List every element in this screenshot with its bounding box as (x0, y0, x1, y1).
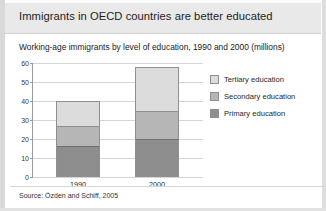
tick-mark-0 (30, 177, 33, 178)
bar-1990-segment-secondary[interactable] (57, 126, 99, 146)
figure-title: Immigrants in OECD countries are better … (19, 10, 273, 22)
bar-2000-segment-secondary[interactable] (136, 111, 178, 139)
bar-2000[interactable] (135, 67, 179, 177)
chart-subtitle: Working-age immigrants by level of educa… (19, 42, 285, 52)
figure-header-band: Immigrants in OECD countries are better … (5, 3, 321, 34)
y-tick-label-20: 20 (21, 136, 29, 143)
tick-mark-10 (30, 158, 33, 159)
y-tick-label-60: 60 (21, 60, 29, 67)
chart-legend: Tertiary education Secondary education P… (210, 71, 295, 122)
legend-label-tertiary: Tertiary education (224, 75, 284, 84)
tick-mark-30 (30, 120, 33, 121)
legend-item-secondary[interactable]: Secondary education (210, 88, 295, 105)
legend-item-tertiary[interactable]: Tertiary education (210, 71, 295, 88)
tick-mark-50 (30, 82, 33, 83)
y-tick-label-30: 30 (21, 117, 29, 124)
source-note: Source: Özden and Schiff, 2005 (19, 192, 118, 199)
bar-1990[interactable] (56, 101, 100, 177)
bar-1990-segment-tertiary[interactable] (57, 102, 99, 126)
bar-2000-segment-primary[interactable] (136, 139, 178, 176)
tick-mark-40 (30, 101, 33, 102)
y-tick-label-50: 50 (21, 79, 29, 86)
legend-label-secondary: Secondary education (224, 92, 295, 101)
legend-label-primary: Primary education (224, 109, 285, 118)
x-tick-label-1990: 1990 (48, 180, 108, 189)
y-tick-label-40: 40 (21, 98, 29, 105)
y-tick-label-0: 0 (25, 174, 29, 181)
gridline-0 (33, 177, 203, 178)
legend-swatch-tertiary-icon (210, 75, 219, 84)
bar-1990-segment-primary[interactable] (57, 146, 99, 176)
tick-mark-60 (30, 63, 33, 64)
source-divider (10, 186, 326, 187)
legend-item-primary[interactable]: Primary education (210, 105, 295, 122)
bar-2000-segment-tertiary[interactable] (136, 68, 178, 111)
gridline-60 (33, 63, 203, 64)
legend-swatch-primary-icon (210, 109, 219, 118)
chart-panel: Working-age immigrants by level of educa… (5, 34, 321, 208)
page-edge-bottom (0, 208, 326, 211)
x-tick-label-2000: 2000 (127, 180, 187, 189)
tick-mark-20 (30, 139, 33, 140)
y-tick-label-10: 10 (21, 155, 29, 162)
plot-area: 0 10 20 30 40 50 60 (32, 63, 203, 178)
page-edge-right (322, 0, 326, 211)
figure-page: Immigrants in OECD countries are better … (0, 0, 326, 211)
legend-swatch-secondary-icon (210, 92, 219, 101)
